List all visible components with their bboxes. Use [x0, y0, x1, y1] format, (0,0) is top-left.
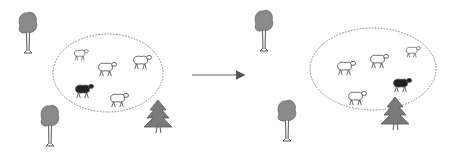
- deciduous-tree-icon: [41, 105, 59, 146]
- white-sheep-icon: [371, 54, 389, 68]
- pine-tree-icon: [381, 97, 409, 130]
- diagram-canvas: [0, 0, 455, 153]
- white-sheep-icon: [338, 61, 356, 75]
- black-sheep-icon: [76, 84, 94, 98]
- sheep-flock-diagram: [0, 0, 455, 153]
- white-sheep-icon: [134, 55, 152, 69]
- enclosure-boundary: [53, 34, 163, 112]
- white-sheep-icon: [111, 93, 129, 107]
- black-sheep-icon: [394, 78, 412, 92]
- deciduous-tree-icon: [278, 100, 296, 141]
- white-sheep-icon: [406, 47, 420, 58]
- white-sheep-icon: [349, 91, 367, 105]
- panel-before: [19, 12, 172, 146]
- deciduous-tree-icon: [19, 12, 37, 53]
- white-sheep-icon: [99, 62, 117, 76]
- pine-tree-icon: [144, 100, 172, 133]
- white-sheep-icon: [74, 50, 88, 61]
- panel-after: [255, 10, 436, 141]
- deciduous-tree-icon: [255, 10, 273, 51]
- enclosure-boundary: [310, 28, 436, 110]
